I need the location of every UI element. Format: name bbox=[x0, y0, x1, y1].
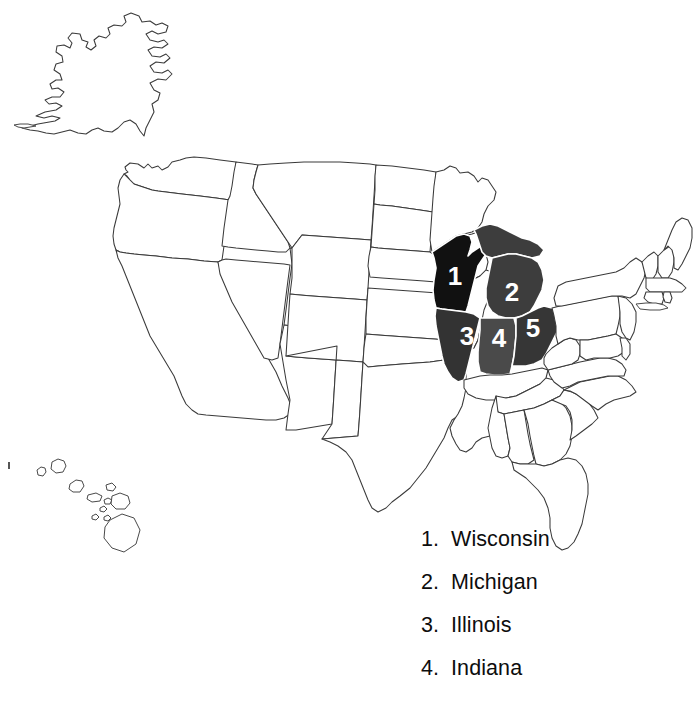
state-new-hampshire bbox=[658, 246, 674, 278]
state-new-york bbox=[554, 258, 646, 306]
legend-label-4: Indiana bbox=[451, 656, 522, 681]
map-number-1: 1 bbox=[448, 261, 462, 291]
state-connecticut bbox=[644, 292, 664, 304]
map-number-4: 4 bbox=[492, 323, 507, 353]
map-number-2: 2 bbox=[505, 277, 519, 307]
legend-label-2: Michigan bbox=[451, 570, 538, 595]
legend-item-3: 3. Illinois bbox=[421, 613, 691, 656]
legend-number-1: 1. bbox=[421, 527, 451, 552]
worksheet-page: 1 2 3 4 5 1. Wisconsin 2. Michigan 3. Il… bbox=[0, 0, 698, 702]
legend-label-1: Wisconsin bbox=[451, 527, 550, 552]
map-number-5: 5 bbox=[526, 313, 540, 343]
state-massachusetts bbox=[646, 278, 686, 292]
state-south-dakota bbox=[371, 204, 433, 252]
legend-number-3: 3. bbox=[421, 613, 451, 638]
long-island bbox=[636, 303, 668, 310]
legend-number-4: 4. bbox=[421, 656, 451, 681]
state-hawaii bbox=[37, 459, 140, 552]
state-delaware bbox=[620, 338, 630, 360]
legend-number-2: 2. bbox=[421, 570, 451, 595]
legend-item-4: 4. Indiana bbox=[421, 656, 691, 699]
state-alaska bbox=[14, 13, 172, 136]
map-number-3: 3 bbox=[460, 321, 474, 351]
scan-artifact-speck bbox=[8, 462, 10, 469]
legend-item-1: 1. Wisconsin bbox=[421, 527, 691, 570]
state-rhode-island bbox=[663, 292, 672, 303]
legend-label-3: Illinois bbox=[451, 613, 512, 638]
state-legend: 1. Wisconsin 2. Michigan 3. Illinois 4. … bbox=[421, 527, 691, 699]
state-wyoming bbox=[290, 235, 371, 300]
state-new-jersey bbox=[618, 296, 636, 340]
state-michigan-upper-peninsula bbox=[474, 224, 544, 258]
legend-item-2: 2. Michigan bbox=[421, 570, 691, 613]
